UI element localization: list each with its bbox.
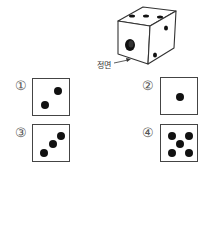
option-3-marker: ③ xyxy=(15,126,27,139)
pip xyxy=(185,149,193,157)
pip xyxy=(57,132,65,140)
option-1-face[interactable] xyxy=(32,78,70,116)
pip xyxy=(54,87,62,95)
option-2-marker: ② xyxy=(142,79,154,92)
pip xyxy=(168,132,176,140)
pip xyxy=(168,149,176,157)
option-4-face[interactable] xyxy=(160,124,198,162)
option-2-face[interactable] xyxy=(160,77,198,115)
option-3-face[interactable] xyxy=(32,124,70,162)
pip xyxy=(176,140,184,148)
pip xyxy=(49,140,57,148)
front-label: 정면 xyxy=(97,59,111,70)
pip xyxy=(41,101,49,109)
pip xyxy=(176,93,184,101)
option-4-marker: ④ xyxy=(142,126,154,139)
pip xyxy=(185,132,193,140)
pip xyxy=(40,149,48,157)
option-1-marker: ① xyxy=(15,79,27,92)
